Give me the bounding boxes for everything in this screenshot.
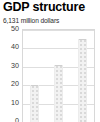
y-axis-tick-label: 10 bbox=[11, 99, 19, 107]
y-axis-tick-label: 20 bbox=[11, 80, 19, 88]
bar-top-edge bbox=[79, 39, 86, 40]
bar-top-edge bbox=[31, 85, 38, 86]
y-axis: 50403020100 bbox=[0, 26, 21, 122]
bar bbox=[30, 85, 39, 122]
bar bbox=[78, 39, 87, 122]
y-axis-tick-label: 50 bbox=[11, 25, 19, 33]
y-axis-tick-label: 0 bbox=[15, 117, 19, 122]
plot-wrapper: 50403020100 bbox=[0, 26, 100, 122]
plot-area bbox=[22, 29, 95, 122]
bar-top-edge bbox=[55, 65, 62, 66]
y-axis-tick-label: 40 bbox=[11, 43, 19, 51]
chart-title: GDP structure bbox=[3, 0, 85, 15]
gridline bbox=[23, 30, 94, 31]
y-axis-tick-label: 30 bbox=[11, 62, 19, 70]
chart-thumbnail: GDP structure 6,131 million dollars 5040… bbox=[0, 0, 100, 122]
bar bbox=[54, 65, 63, 122]
